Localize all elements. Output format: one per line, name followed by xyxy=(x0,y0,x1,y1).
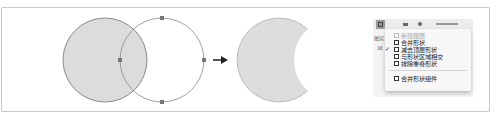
menu-item-label: 合并形状 xyxy=(401,39,425,46)
toolbar-text xyxy=(436,23,458,25)
menu-item-intersect-shapes[interactable]: 与形状区域相交 xyxy=(385,53,471,60)
path-operations-icon xyxy=(378,22,383,27)
menu-item-label: 合并形状组件 xyxy=(401,75,437,82)
anchor-point-bottom xyxy=(160,100,164,104)
new-layer-icon xyxy=(394,33,399,38)
crescent-result-shape xyxy=(237,18,321,102)
menu-item-combine-shapes[interactable]: 合并形状 xyxy=(385,39,471,46)
menu-item-merge-shape-components[interactable]: 合并形状组件 xyxy=(385,75,471,82)
menu-item-subtract-front-shape[interactable]: ✓ 减去顶层形状 xyxy=(385,46,471,53)
panel-side-label: 图层 xyxy=(374,34,384,41)
anchor-point-left xyxy=(118,58,122,62)
merge-shape-components-icon xyxy=(394,76,399,81)
menu-item-label: 与形状区域相交 xyxy=(401,53,443,60)
path-operations-menu: 新建图层 合并形状 ✓ 减去顶层形状 与形状区域相交 排除重叠形状 合并形状组件 xyxy=(385,29,471,91)
menu-item-new-layer[interactable]: 新建图层 xyxy=(385,32,471,39)
anchor-point-top xyxy=(160,16,164,20)
exclude-overlap-icon xyxy=(394,61,399,66)
menu-separator xyxy=(389,70,467,71)
intersect-shapes-icon xyxy=(394,54,399,59)
menu-item-label: 排除重叠形状 xyxy=(401,60,437,67)
checkmark-icon: ✓ xyxy=(385,46,391,53)
menu-item-label: 新建图层 xyxy=(401,32,425,39)
bottom-circle-shape xyxy=(63,18,147,102)
toolbar-icon[interactable] xyxy=(403,23,408,26)
path-operations-button[interactable] xyxy=(376,20,385,29)
subtract-front-shape-icon xyxy=(394,47,399,52)
lock-icon[interactable] xyxy=(418,22,422,26)
panel-side-value: 1€ xyxy=(377,45,383,51)
menu-item-label: 减去顶层形状 xyxy=(401,46,437,53)
menu-item-exclude-overlap[interactable]: 排除重叠形状 xyxy=(385,60,471,67)
right-arrow-icon xyxy=(213,56,228,64)
anchor-point-right xyxy=(202,58,206,62)
combine-shapes-icon xyxy=(394,40,399,45)
